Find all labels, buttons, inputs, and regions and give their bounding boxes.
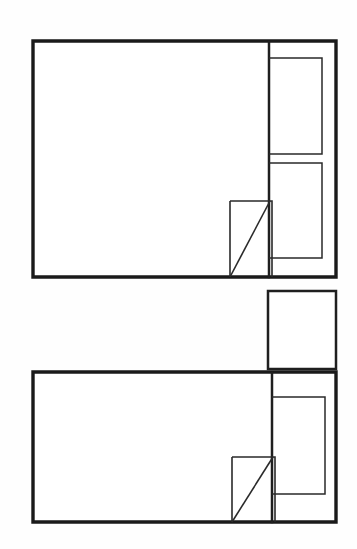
upper-plan: [33, 41, 336, 277]
detached-room-floor-fill: [268, 291, 336, 369]
upper-plan-floor-fill: [33, 41, 336, 277]
floor-plan-figure: Hand-drawn floor plan study Two near-ide…: [0, 0, 357, 549]
lower-plan: [33, 372, 336, 522]
lower-plan-floor-fill: [33, 372, 336, 522]
floor-plan-drawing: [0, 0, 357, 549]
detached-square-room: [268, 291, 336, 369]
